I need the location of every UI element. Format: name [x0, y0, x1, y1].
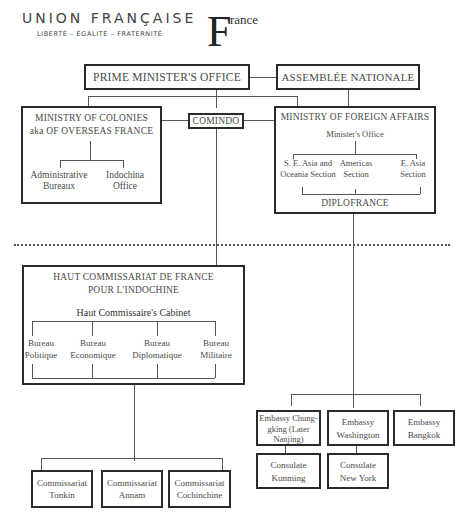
assemblee-nationale-label: ASSEMBLÉE NATIONALE	[278, 71, 418, 84]
cabinet-drop-1	[32, 321, 33, 336]
pm-down-connector	[216, 89, 217, 96]
fa-inner-hline	[293, 154, 416, 155]
ministers-office-label: Minister's Office	[276, 130, 434, 140]
colonies-title-2: aka OF OVERSEAS FRANCE	[23, 126, 160, 137]
ministry-of-foreign-affairs-box: MINISTRY OF FOREIGN AFFAIRS Minister's O…	[274, 106, 436, 214]
embassy-drop-1	[291, 394, 292, 406]
cabinet-drop-4	[215, 321, 216, 336]
commissariat-drop-1	[41, 458, 42, 470]
france-logo-letter: F	[207, 10, 231, 54]
colonies-drop	[88, 96, 89, 106]
indochina-office-label: IndochinaOffice	[95, 170, 155, 192]
consulate-kunming-label: ConsulateKunming	[258, 459, 319, 484]
se-asia-section-label: S. E. Asia andOceania Section	[278, 158, 338, 180]
embassies-branch-line	[291, 394, 421, 395]
fa-bottom-right	[420, 187, 421, 194]
haut-commissariat-box: HAUT COMMISSARIAT DE FRANCE POUR L'INDOC…	[22, 265, 245, 385]
diplofrance-label: DIPLOFRANCE	[276, 198, 434, 209]
embassy-bangkok-box: EmbassyBangkok	[393, 410, 455, 446]
haut-commissariat-title-1: HAUT COMMISSARIAT DE FRANCE	[24, 272, 243, 283]
prime-ministers-office-box: PRIME MINISTER'S OFFICE	[84, 64, 250, 90]
union-francaise-title: UNION FRANÇAISE	[22, 10, 196, 26]
bureau-politique-label: BureauPolitique	[16, 337, 66, 361]
embassy-washington-label: EmbassyWashington	[329, 416, 387, 441]
embassy-bangkok-label: EmbassyBangkok	[395, 416, 453, 441]
bureau-economique-label: BureauEconomique	[64, 337, 122, 361]
fa-bottom-hline	[302, 194, 420, 195]
colonies-inner-drop-1	[60, 160, 61, 168]
commissariat-cochinchine-box: CommissariatCochinchine	[168, 470, 231, 508]
bureau-bottom-2	[92, 364, 93, 378]
colonies-title-1: MINISTRY OF COLONIES	[23, 113, 160, 124]
fa-inner-vline	[355, 141, 356, 154]
ministry-of-colonies-box: MINISTRY OF COLONIES aka OF OVERSEAS FRA…	[21, 106, 162, 204]
fa-bottom-mid	[355, 189, 356, 194]
comindo-box: COMINDO	[188, 113, 244, 129]
bureau-bottom-4	[215, 364, 216, 378]
cabinet-drop-3	[157, 321, 158, 336]
embassy-chungking-label: Embassy Chung-gking (LaterNanjing)	[258, 413, 319, 445]
pm-branch-line	[88, 96, 297, 97]
fa-bottom-left	[302, 187, 303, 194]
commissariat-cochinchine-label: CommissariatCochinchine	[170, 477, 229, 501]
commissariat-annam-label: CommissariatAnnam	[103, 477, 161, 501]
commissariat-annam-box: CommissariatAnnam	[101, 470, 163, 508]
administrative-bureaux-label: AdministrativeBureaux	[27, 170, 91, 192]
bureau-militaire-label: BureauMilitaire	[192, 337, 240, 361]
france-logo-rest: rance	[230, 12, 258, 28]
commissariats-branch-line	[41, 458, 223, 459]
commissariat-tonkin-box: CommissariatTonkin	[31, 470, 93, 508]
consulate-newyork-box: ConsulateNew York	[327, 453, 389, 489]
americas-section-label: AmericasSection	[331, 158, 381, 180]
embassy-chungking-box: Embassy Chung-gking (LaterNanjing)	[256, 410, 321, 446]
prime-ministers-office-label: PRIME MINISTER'S OFFICE	[86, 71, 248, 84]
bureau-bottom-1	[32, 364, 33, 378]
pm-assemblee-connector	[250, 77, 276, 78]
colonies-inner-vline	[90, 141, 91, 160]
colonies-inner-hline	[60, 160, 123, 161]
motto: LIBERTÉ – ÉGALITÉ – FRATERNITÉ	[37, 30, 163, 38]
consulate-kunming-box: ConsulateKunming	[256, 453, 321, 489]
bureau-bottom-hline	[32, 378, 215, 379]
foreign-drop	[297, 96, 298, 106]
dotted-separator	[14, 244, 450, 246]
embassy-washington-box: EmbassyWashington	[327, 410, 389, 446]
embassy-drop-3	[420, 394, 421, 406]
haut-commissariat-title-2: POUR L'INDOCHINE	[24, 285, 243, 296]
commissariat-drop-3	[222, 458, 223, 470]
foreign-affairs-title: MINISTRY OF FOREIGN AFFAIRS	[276, 112, 434, 123]
cabinet-hline	[32, 321, 215, 322]
e-asia-section-label: E. AsiaSection	[388, 158, 438, 180]
pm-to-comindo	[216, 96, 217, 108]
bureau-diplomatique-label: BureauDiplomatique	[127, 337, 187, 361]
bureau-bottom-3	[157, 364, 158, 378]
commissariat-tonkin-label: CommissariatTonkin	[33, 477, 91, 501]
colonies-inner-drop-2	[123, 160, 124, 168]
assemblee-down-connector	[348, 89, 349, 106]
consulate-newyork-label: ConsulateNew York	[329, 459, 387, 484]
hc-to-commissariats	[134, 385, 135, 461]
cabinet-drop-2	[92, 321, 93, 336]
comindo-label: COMINDO	[190, 116, 242, 127]
assemblee-nationale-box: ASSEMBLÉE NATIONALE	[276, 64, 420, 90]
cabinet-label: Haut Commissaire's Cabinet	[24, 307, 243, 319]
